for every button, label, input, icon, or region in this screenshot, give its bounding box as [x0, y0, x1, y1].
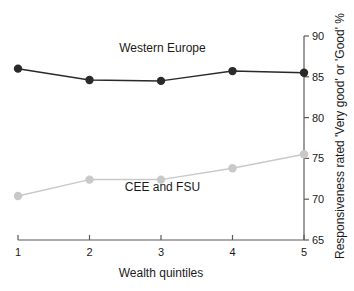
data-point-marker [300, 150, 308, 158]
y-tick-label: 75 [312, 152, 324, 164]
y-tick-label: 90 [312, 30, 324, 42]
x-tick-label: 2 [86, 246, 92, 258]
data-point-marker [300, 69, 308, 77]
series-annotations: Western EuropeCEE and FSU [119, 41, 206, 195]
data-point-marker [14, 64, 22, 72]
x-tick-label: 1 [15, 246, 21, 258]
y-axis-title: Responsiveness rated 'Very good' or 'Goo… [333, 13, 347, 259]
y-axis: 657075808590 [304, 30, 324, 246]
data-point-marker [85, 175, 93, 183]
data-point-marker [85, 76, 93, 84]
data-point-marker [157, 77, 165, 85]
series-label-western-europe: Western Europe [119, 41, 206, 55]
data-point-marker [228, 164, 236, 172]
y-tick-label: 80 [312, 112, 324, 124]
line-chart: 657075808590 12345 Western EuropeCEE and… [0, 0, 354, 291]
data-point-marker [14, 192, 22, 200]
y-tick-label: 85 [312, 71, 324, 83]
x-tick-label: 3 [158, 246, 164, 258]
series-label-cee-and-fsu: CEE and FSU [125, 180, 200, 194]
x-axis-title: Wealth quintiles [119, 266, 204, 280]
y-tick-label: 65 [312, 234, 324, 246]
chart-container: 657075808590 12345 Western EuropeCEE and… [0, 0, 354, 291]
data-point-marker [228, 67, 236, 75]
x-axis: 12345 [15, 235, 307, 258]
x-tick-label: 5 [301, 246, 307, 258]
y-tick-label: 70 [312, 193, 324, 205]
x-tick-label: 4 [229, 246, 235, 258]
